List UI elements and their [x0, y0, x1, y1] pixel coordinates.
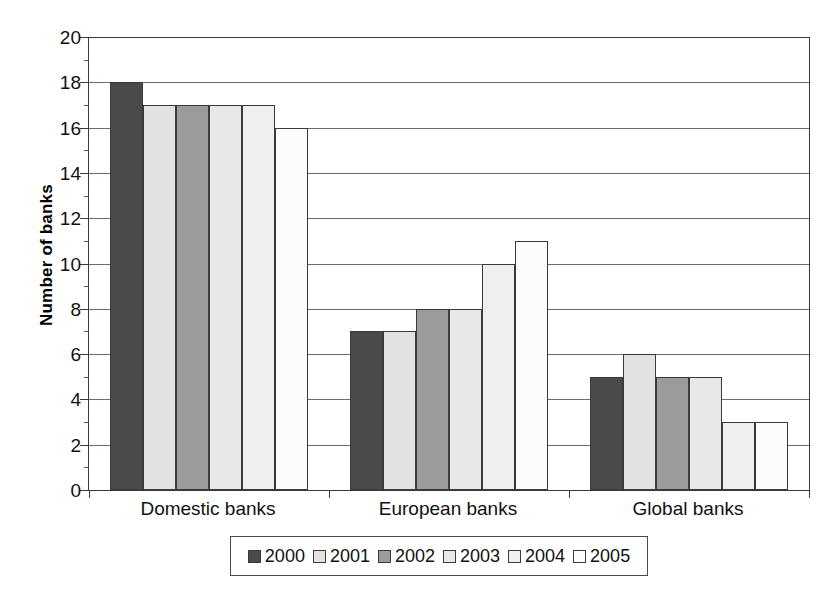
y-axis-tick — [80, 128, 89, 129]
legend-label: 2000 — [265, 547, 305, 565]
bar[interactable] — [722, 422, 755, 490]
y-axis-minor-tick — [84, 196, 89, 197]
legend-item[interactable]: 2002 — [378, 547, 435, 565]
legend-item[interactable]: 2004 — [508, 547, 565, 565]
x-axis-category-label: Domestic banks — [88, 498, 328, 520]
bar[interactable] — [209, 105, 242, 490]
y-axis-tick — [80, 37, 89, 38]
bar[interactable] — [383, 331, 416, 490]
bar[interactable] — [755, 422, 788, 490]
y-axis-minor-tick — [84, 105, 89, 106]
bar[interactable] — [416, 309, 449, 490]
legend-label: 2005 — [590, 547, 630, 565]
legend-swatch-icon — [443, 550, 456, 563]
y-axis-tick-label: 8 — [70, 299, 81, 318]
x-axis-tick — [569, 490, 570, 498]
legend-swatch-icon — [573, 550, 586, 563]
legend-label: 2001 — [330, 547, 370, 565]
bar[interactable] — [242, 105, 275, 490]
y-axis-tick-label: 16 — [60, 118, 81, 137]
bar-group — [350, 37, 548, 490]
y-axis-tick-label: 10 — [60, 254, 81, 273]
legend-label: 2004 — [525, 547, 565, 565]
x-axis-category-label: Global banks — [568, 498, 808, 520]
bar[interactable] — [590, 377, 623, 490]
legend-item[interactable]: 2000 — [248, 547, 305, 565]
legend-label: 2002 — [395, 547, 435, 565]
y-axis-title: Number of banks — [37, 125, 57, 385]
legend-swatch-icon — [313, 550, 326, 563]
y-axis-tick-label: 18 — [60, 73, 81, 92]
bar[interactable] — [176, 105, 209, 490]
y-axis-tick-label: 0 — [70, 481, 81, 500]
y-axis-tick-label: 20 — [60, 28, 81, 47]
plot-right-border — [809, 37, 810, 490]
legend-item[interactable]: 2003 — [443, 547, 500, 565]
y-axis-tick — [80, 82, 89, 83]
y-axis-minor-tick — [84, 422, 89, 423]
y-axis-tick-label: 12 — [60, 209, 81, 228]
y-axis-minor-tick — [84, 377, 89, 378]
chart-legend: 200020012002200320042005 — [230, 536, 648, 576]
bar[interactable] — [275, 128, 308, 490]
legend-swatch-icon — [508, 550, 521, 563]
x-axis-tick — [89, 490, 90, 498]
x-axis-tick — [329, 490, 330, 498]
bar[interactable] — [482, 264, 515, 491]
y-axis-tick — [80, 218, 89, 219]
y-axis-tick-label: 4 — [70, 390, 81, 409]
bar[interactable] — [110, 82, 143, 490]
y-axis-minor-tick — [84, 286, 89, 287]
bar[interactable] — [515, 241, 548, 490]
y-axis-minor-tick — [84, 60, 89, 61]
bar-chart: Number of banks 02468101214161820 Domest… — [0, 0, 832, 600]
x-axis-tick — [809, 490, 810, 498]
bar[interactable] — [656, 377, 689, 490]
bar[interactable] — [143, 105, 176, 490]
y-axis-tick — [80, 490, 89, 491]
y-axis-minor-tick — [84, 467, 89, 468]
y-axis-tick — [80, 264, 89, 265]
y-axis-minor-tick — [84, 150, 89, 151]
bar[interactable] — [689, 377, 722, 490]
y-axis-tick — [80, 445, 89, 446]
x-axis-category-label: European banks — [328, 498, 568, 520]
y-axis-tick — [80, 173, 89, 174]
legend-swatch-icon — [248, 550, 261, 563]
bar[interactable] — [623, 354, 656, 490]
bar-group — [110, 37, 308, 490]
legend-item[interactable]: 2005 — [573, 547, 630, 565]
legend-label: 2003 — [460, 547, 500, 565]
bar[interactable] — [449, 309, 482, 490]
y-axis-minor-tick — [84, 331, 89, 332]
plot-area: 02468101214161820 — [88, 37, 809, 491]
y-axis-minor-tick — [84, 241, 89, 242]
y-axis-tick-label: 6 — [70, 345, 81, 364]
legend-swatch-icon — [378, 550, 391, 563]
y-axis-tick — [80, 309, 89, 310]
bar[interactable] — [350, 331, 383, 490]
legend-item[interactable]: 2001 — [313, 547, 370, 565]
y-axis-tick — [80, 354, 89, 355]
y-axis-tick-label: 2 — [70, 435, 81, 454]
y-axis-tick-label: 14 — [60, 163, 81, 182]
bar-group — [590, 37, 788, 490]
